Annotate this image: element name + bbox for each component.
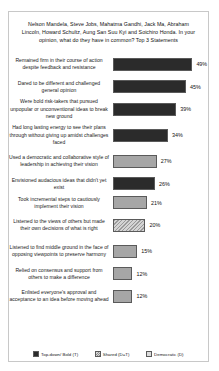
bar-track: 27%	[113, 148, 208, 174]
legend-swatch-icon	[146, 351, 152, 357]
bar-category-label: Listened to find middle ground in the fa…	[9, 244, 113, 258]
bar-category-label: Had long lasting energy to see their pla…	[9, 124, 113, 146]
legend-label: Democratic (D)	[154, 352, 184, 357]
legend-label: Shared (D=T)	[103, 352, 130, 357]
bar-track: 34%	[113, 122, 208, 148]
bar-value-label: 27%	[161, 158, 172, 164]
bar-track: 26%	[113, 174, 208, 193]
bar-row: Envisioned audacious ideas that didn't y…	[9, 174, 208, 193]
bar-value-label: 26%	[159, 181, 170, 187]
bar[interactable]	[113, 129, 168, 142]
bar[interactable]	[113, 245, 137, 258]
bar-value-label: 12%	[136, 293, 147, 299]
legend-item[interactable]: Top-down/ Bold (T)	[33, 351, 78, 357]
bar[interactable]	[113, 155, 157, 168]
bar-category-label: Envisioned audacious ideas that didn't y…	[9, 177, 113, 191]
bar-category-label: Enlisted everyone's approval and accepta…	[9, 289, 113, 303]
bar-category-label: Listened to the views of others but made…	[9, 218, 113, 232]
bar[interactable]	[113, 103, 176, 116]
bar-row: Enlisted everyone's approval and accepta…	[9, 283, 208, 309]
bar-value-label: 45%	[190, 84, 201, 90]
bar-row: Listened to find middle ground in the fa…	[9, 238, 208, 264]
bar-category-label: Used a democratic and collaborative styl…	[9, 154, 113, 168]
legend-swatch-icon	[95, 351, 101, 357]
bar-track: 12%	[113, 264, 208, 283]
bar-row: Dared to be different and challenged gen…	[9, 77, 208, 96]
bar-category-label: Took incremental steps to cautiously imp…	[9, 196, 113, 210]
bar-track: 12%	[113, 283, 208, 309]
bar-category-label: Dared to be different and challenged gen…	[9, 80, 113, 94]
bar-row: Had long lasting energy to see their pla…	[9, 122, 208, 148]
bar-track: 49%	[113, 51, 208, 77]
bar-row: Remained firm in their course of action …	[9, 51, 208, 77]
bar[interactable]	[113, 177, 155, 190]
bar-value-label: 39%	[180, 106, 191, 112]
bar-row: Listened to the views of others but made…	[9, 212, 208, 238]
bar-track: 15%	[113, 238, 208, 264]
chart-legend: Top-down/ Bold (T)Shared (D=T)Democratic…	[9, 351, 208, 357]
legend-item[interactable]: Democratic (D)	[146, 351, 183, 357]
bar-track: 45%	[113, 77, 208, 96]
legend-label: Top-down/ Bold (T)	[41, 352, 78, 357]
bar-value-label: 21%	[151, 200, 162, 206]
bar-category-label: Relied on consensus and support from oth…	[9, 267, 113, 281]
chart-container: Nelson Mandela, Steve Jobs, Mahatma Gand…	[8, 11, 209, 362]
bar-category-label: Remained firm in their course of action …	[9, 57, 113, 71]
chart-title: Nelson Mandela, Steve Jobs, Mahatma Gand…	[19, 20, 198, 44]
legend-item[interactable]: Shared (D=T)	[95, 351, 129, 357]
bar-row: Were bold risk-takers that pursued unpop…	[9, 96, 208, 122]
bar-plot-area: Remained firm in their course of action …	[9, 51, 208, 309]
legend-swatch-icon	[33, 351, 39, 357]
bar[interactable]	[113, 219, 145, 232]
bar[interactable]	[113, 290, 132, 303]
bar-value-label: 20%	[149, 222, 160, 228]
bar-value-label: 15%	[141, 248, 152, 254]
bar-category-label: Were bold risk-takers that pursued unpop…	[9, 98, 113, 120]
bar[interactable]	[113, 196, 147, 209]
bar-value-label: 12%	[136, 271, 147, 277]
bar[interactable]	[113, 58, 192, 71]
bar-track: 39%	[113, 96, 208, 122]
bar-track: 21%	[113, 193, 208, 212]
bar-value-label: 34%	[172, 132, 183, 138]
bar[interactable]	[113, 267, 132, 280]
bar-value-label: 49%	[196, 61, 207, 67]
bar-row: Relied on consensus and support from oth…	[9, 264, 208, 283]
bar-track: 20%	[113, 212, 208, 238]
bar-row: Used a democratic and collaborative styl…	[9, 148, 208, 174]
bar[interactable]	[113, 80, 186, 93]
bar-row: Took incremental steps to cautiously imp…	[9, 193, 208, 212]
